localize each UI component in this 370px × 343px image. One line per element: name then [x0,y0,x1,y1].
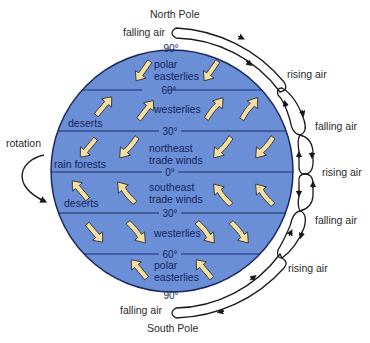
south-polar-cell-arrow-1 [250,277,254,280]
falling-air-30s-label: falling air [315,214,358,226]
falling-air-30n-label: falling air [315,120,358,132]
south-ferrel-cell-arrow-1 [301,232,302,236]
rotation-arrow-icon [22,155,44,201]
north-deserts-label: deserts [68,117,102,129]
south-hadley-cell [298,174,313,211]
south-polar-cell-arrow-2 [220,311,224,312]
rising-air-60n-label: rising air [287,68,327,80]
latitude-label-30s: 30° [162,208,177,219]
wind-circulation-diagram: 90° 60° 30° 0° 30° 60° 90° polar easterl… [0,0,370,343]
southeast-trades-label-2: trade winds [149,193,203,205]
north-polar-cell-arrow-1 [238,36,242,38]
north-polar-easterlies-label-2: easterlies [154,70,199,82]
north-pole-label: North Pole [150,8,200,20]
latitude-label-60n: 60° [161,85,176,96]
rotation-label: rotation [6,137,41,149]
latitude-label-90n: 90° [163,43,178,54]
southeast-trades-label-1: southeast [149,181,195,193]
northeast-trades-label-1: northeast [149,142,193,154]
falling-air-south-pole-label: falling air [120,304,163,316]
latitude-label-equator: 0° [165,167,175,178]
rotation-indicator: rotation [6,137,44,201]
north-westerlies-label: westerlies [153,103,201,115]
rain-forests-label: rain forests [54,158,106,170]
north-hadley-cell [298,135,313,174]
falling-air-north-pole-label: falling air [123,26,166,38]
south-westerlies-label: westerlies [153,227,201,239]
south-polar-easterlies-label-2: easterlies [154,271,199,283]
latitude-label-90s: 90° [163,290,178,301]
south-ferrel-cell-arrow-2 [289,232,291,236]
latitude-label-30n: 30° [162,126,177,137]
rising-air-equator-label: rising air [322,166,362,178]
south-pole-label: South Pole [147,322,199,334]
northeast-trades-label-2: trade winds [149,154,203,166]
south-polar-easterlies-label-1: polar [154,259,178,271]
globe: 90° 60° 30° 0° 30° 60° 90° polar easterl… [40,43,310,301]
rising-air-60s-label: rising air [288,262,328,274]
north-polar-easterlies-label-1: polar [154,58,178,70]
south-deserts-label: deserts [64,197,98,209]
